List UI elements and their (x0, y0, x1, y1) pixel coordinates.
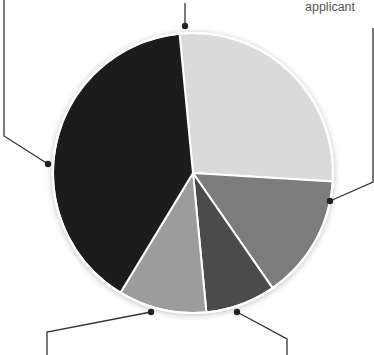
leader-bottom-left-dot (148, 309, 154, 315)
leader-right-dot (327, 198, 333, 204)
leader-top-dot (182, 23, 188, 29)
leader-bottom-left (47, 312, 151, 355)
pie-chart (0, 0, 374, 355)
slice-label-applicant: applicant (305, 0, 355, 14)
leader-right (330, 28, 373, 201)
leader-bottom-right (237, 312, 287, 355)
leader-left-dot (45, 161, 51, 167)
pie-slices (53, 33, 333, 313)
pie-slice-1 (180, 33, 333, 182)
leader-bottom-right-dot (234, 309, 240, 315)
leader-left (4, 0, 48, 164)
